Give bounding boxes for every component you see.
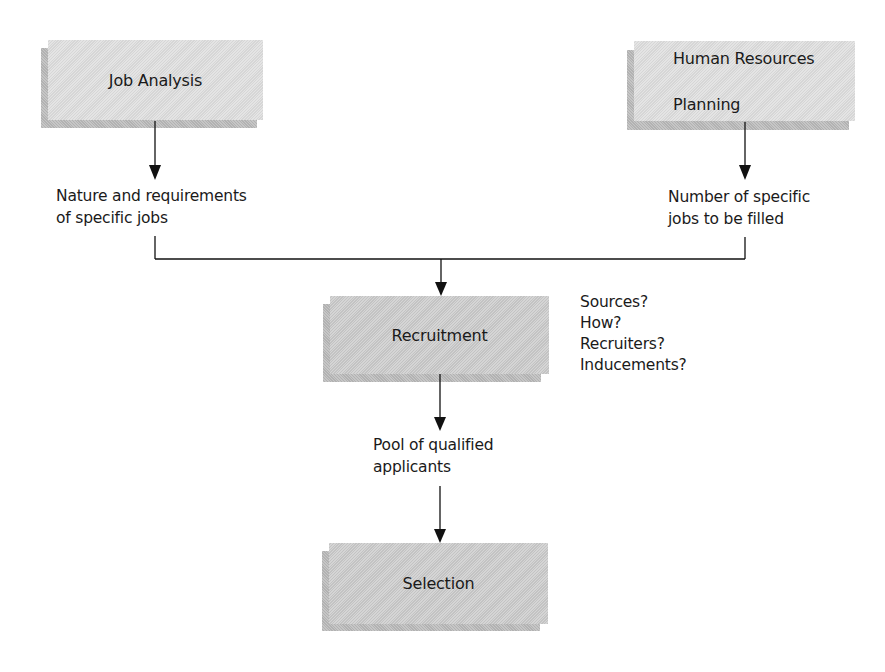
- arrowhead-pool: [434, 417, 446, 431]
- arrowhead-job-analysis: [149, 165, 161, 180]
- arrowhead-hr-planning: [739, 165, 751, 180]
- connectors: [0, 0, 885, 672]
- arrowhead-recruitment: [435, 282, 447, 296]
- recruitment-flow-diagram: Job Analysis Human Resources Planning Na…: [0, 0, 885, 672]
- arrowhead-selection: [434, 529, 446, 543]
